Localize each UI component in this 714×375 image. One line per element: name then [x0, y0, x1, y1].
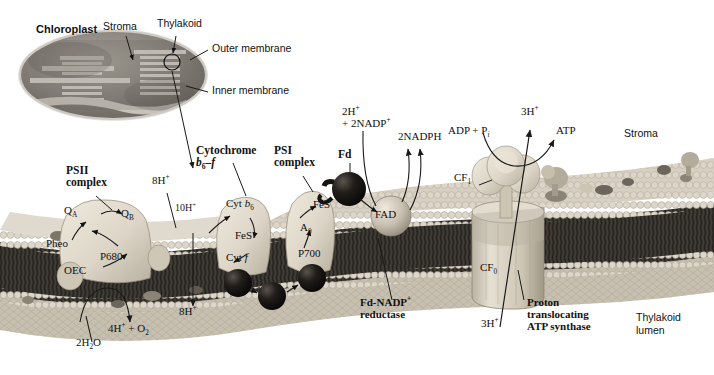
a0-label: A0 — [300, 222, 312, 234]
diagram-artwork — [0, 0, 714, 375]
psii-proton-uptake-label: 8H+ — [152, 175, 170, 187]
qb-label: QB — [121, 208, 134, 220]
ten-proton-label: 10H+ — [175, 203, 196, 214]
nadph-product-label: 2NADPH — [398, 131, 441, 143]
nadp-substrate-label: 2H+ + 2NADP+ — [342, 106, 391, 130]
oec-label: OEC — [64, 265, 86, 277]
cf0-label: CF0 — [480, 262, 497, 274]
fad-label: FAD — [375, 209, 396, 221]
ferredoxin-label: Fd — [338, 148, 351, 160]
atp-synthase-label: Proton translocating ATP synthase — [527, 297, 591, 333]
thylakoid-lumen-label: Thylakoid lumen — [636, 311, 681, 336]
atp-synthase-shape — [472, 146, 544, 309]
psii-complex-label: PSII complex — [66, 164, 107, 189]
inset-outer-membrane-label: Outer membrane — [212, 43, 291, 54]
fd-nadp-reductase-label: Fd-NADP+ reductase — [360, 297, 411, 321]
stroma-compartment-label: Stroma — [624, 128, 658, 139]
psi-complex-label: PSI complex — [274, 144, 315, 169]
atp-label: ATP — [556, 125, 576, 137]
cf1-label: CF1 — [454, 172, 471, 184]
qa-label: QA — [64, 205, 77, 217]
lumen-proton-label: 8H+ — [179, 306, 197, 318]
inset-inner-membrane-label: Inner membrane — [212, 85, 289, 96]
cyt-f-label: Cyt f — [226, 252, 248, 264]
inset-thylakoid-label: Thylakoid — [157, 18, 202, 29]
p680-label: P680 — [100, 251, 123, 263]
inset-stroma-label: Stroma — [103, 21, 137, 32]
adp-pi-label: ADP + Pi — [448, 125, 489, 137]
proton-out-label: 3H+ — [521, 106, 539, 118]
cyt-b6-label: Cyt b6 — [226, 198, 254, 210]
p700-label: P700 — [298, 248, 321, 260]
inset-chloroplast-label: Chloroplast — [36, 24, 97, 36]
proton-in-label: 3H+ — [481, 318, 499, 330]
oxygen-label: 4H+ + O2 — [108, 323, 149, 335]
pheophytin-label: Pheo — [46, 238, 68, 250]
fes-b6f-label: FeS — [235, 230, 252, 242]
cytochrome-b6f-label: Cytochrome b6–f — [196, 144, 256, 169]
fes-psi-label: FeS — [313, 199, 330, 211]
figure-canvas: Chloroplast Stroma Thylakoid Outer membr… — [0, 0, 714, 375]
water-label: 2H2O — [76, 337, 101, 349]
